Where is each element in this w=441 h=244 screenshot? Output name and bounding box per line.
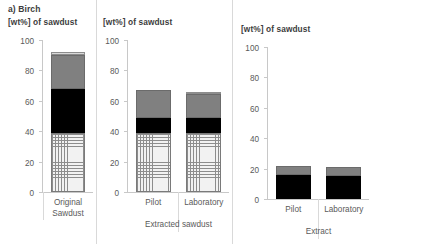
y-axis-tick-label: 0 [114, 189, 119, 198]
y-axis-tick-label: 60 [25, 97, 34, 106]
y-axis-tick-label: 20 [250, 165, 259, 174]
y-axis-tick-label: 20 [110, 158, 119, 167]
bar-segment-cellulose [186, 133, 221, 192]
plot-area-original-sawdust: 020406080100Original Sawdust [42, 40, 93, 193]
bar-group [268, 47, 369, 199]
y-axis-tick-label: 100 [245, 44, 259, 53]
bar-segment-hemicellulose [136, 118, 171, 133]
y-axis-tick-label: 80 [110, 67, 119, 76]
bar-segment-cellulose [51, 133, 85, 192]
y-axis-tick-label: 60 [250, 104, 259, 113]
bar-segment-hemicellulose [276, 175, 311, 199]
y-axis-tick-label: 60 [110, 97, 119, 106]
stacked-bar[interactable] [276, 166, 311, 199]
y-axis-tick-label: 0 [254, 196, 259, 205]
x-axis-category-label: Original Sawdust [43, 197, 93, 219]
x-axis-labels: PilotLaboratory [128, 192, 229, 208]
x-axis-category-label: Laboratory [319, 204, 370, 215]
bar-segment-lignin [326, 167, 361, 176]
stacked-bar[interactable] [51, 52, 85, 192]
chart-panel-extract: [wt%] of sawdust 020406080100PilotLabora… [232, 0, 441, 244]
x-axis-group-label: Extract [268, 227, 369, 236]
chart-panel-extracted-sawdust: [wt%] of sawdust 020406080100PilotLabora… [96, 0, 233, 244]
bar-group [128, 40, 229, 192]
bar-segment-hemicellulose [51, 89, 85, 133]
y-axis-title: [wt%] of sawdust [103, 17, 172, 27]
bar-segment-lignin [276, 166, 311, 175]
y-axis-title: [wt%] of sawdust [8, 17, 77, 27]
y-axis-tick-label: 100 [105, 37, 119, 46]
stacked-bar[interactable] [326, 167, 361, 199]
bar-segment-cellulose [136, 133, 171, 192]
x-axis-labels: PilotLaboratory [268, 199, 369, 215]
stacked-bar[interactable] [186, 92, 221, 192]
y-axis-title: [wt%] of sawdust [241, 24, 310, 34]
y-axis-tick-label: 20 [25, 158, 34, 167]
bar-segment-lignin [186, 94, 221, 118]
x-axis-labels: Original Sawdust [43, 192, 93, 219]
y-axis-tick-label: 40 [25, 128, 34, 137]
plot-area-extract: 020406080100PilotLaboratoryExtract [267, 47, 369, 200]
y-axis-tick-label: 100 [20, 37, 34, 46]
stacked-bar[interactable] [136, 90, 171, 192]
bar-group [43, 40, 93, 192]
y-axis-tick-label: 0 [29, 189, 34, 198]
bar-segment-hemicellulose [326, 176, 361, 199]
bar-segment-lignin [136, 90, 171, 117]
y-axis-tick-label: 80 [250, 74, 259, 83]
x-axis-category-label: Pilot [128, 197, 179, 208]
chart-panel-original-sawdust: [wt%] of sawdust 020406080100Original Sa… [0, 0, 96, 244]
x-axis-category-label: Laboratory [179, 197, 230, 208]
x-axis-group-label: Extracted sawdust [128, 220, 229, 229]
y-axis-tick-label: 40 [250, 135, 259, 144]
x-axis-category-label: Pilot [268, 204, 319, 215]
y-axis-tick-label: 80 [25, 67, 34, 76]
bar-segment-lignin [51, 55, 85, 88]
plot-area-extracted-sawdust: 020406080100PilotLaboratoryExtracted saw… [127, 40, 229, 193]
y-axis-tick-label: 40 [110, 128, 119, 137]
bar-segment-hemicellulose [186, 118, 221, 133]
